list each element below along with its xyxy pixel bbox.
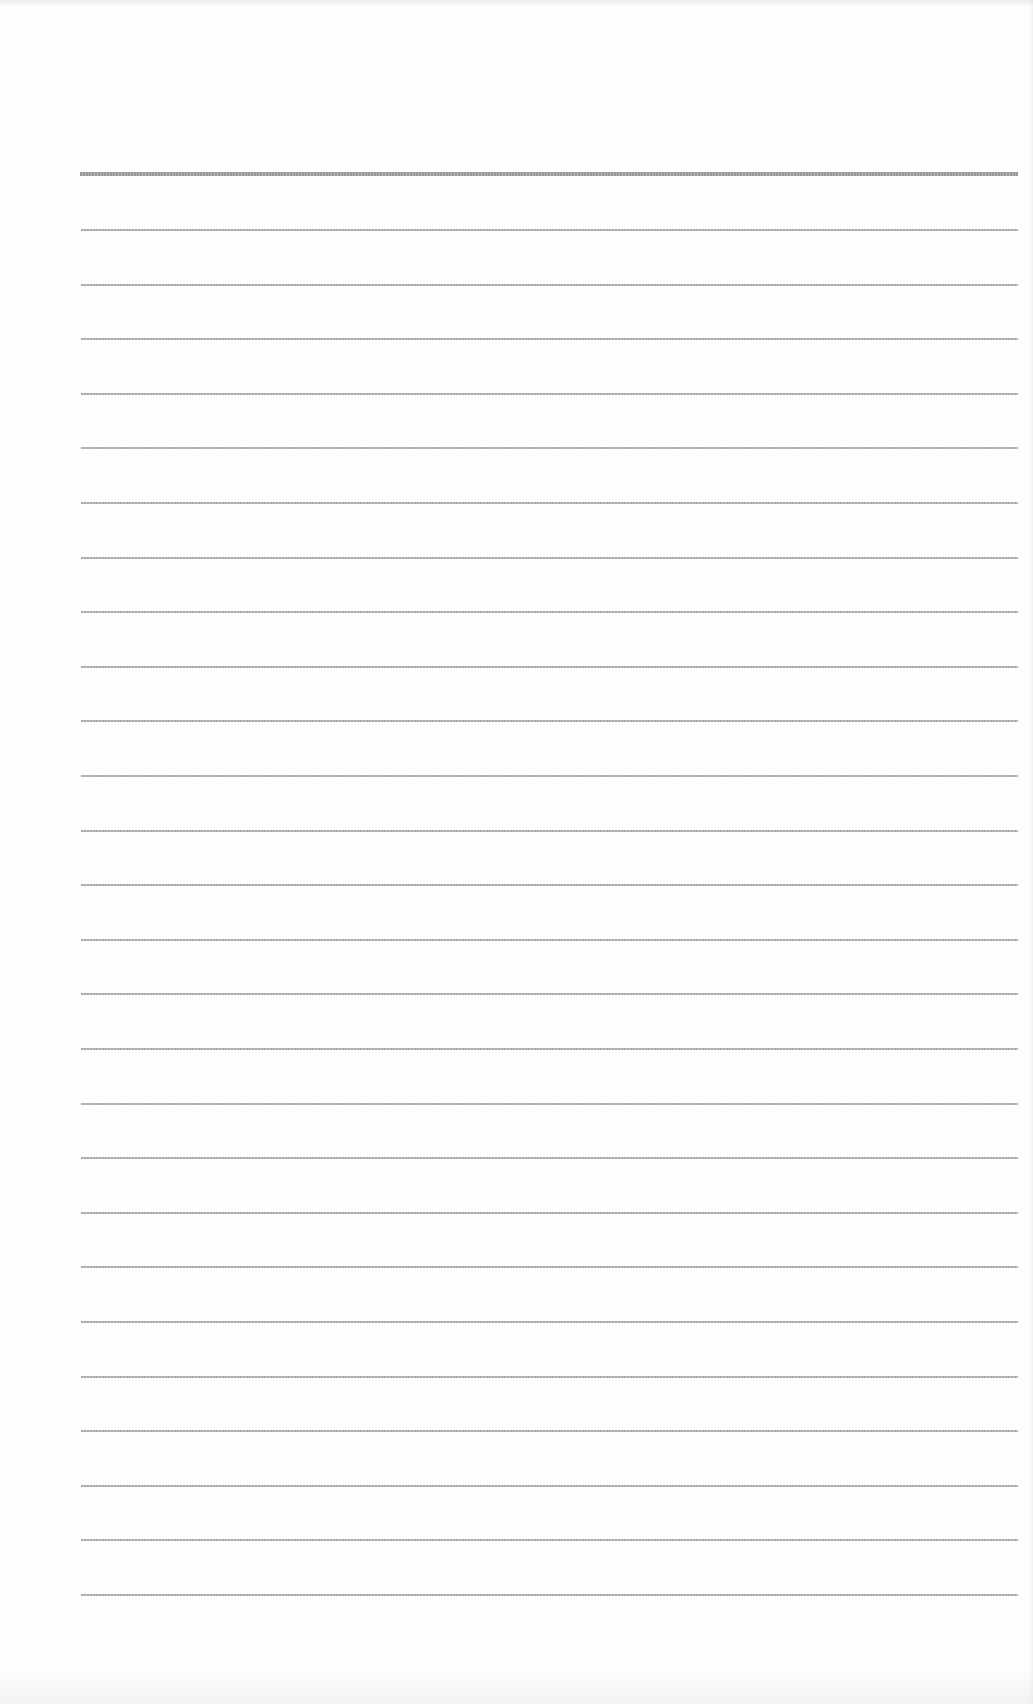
ruled-line — [81, 229, 1018, 231]
lined-paper-page — [0, 0, 1033, 1704]
ruled-line — [81, 720, 1018, 722]
ruled-line — [81, 447, 1018, 449]
ruled-line — [81, 775, 1018, 777]
ruled-line — [81, 1321, 1018, 1323]
ruled-line — [81, 1048, 1018, 1050]
ruled-line — [81, 939, 1018, 941]
ruled-line — [81, 1266, 1018, 1268]
ruled-line — [81, 1212, 1018, 1214]
ruled-line — [81, 393, 1018, 395]
ruled-line — [81, 611, 1018, 613]
ruled-line — [81, 338, 1018, 340]
ruled-line — [81, 1103, 1018, 1105]
ruled-line — [81, 1539, 1018, 1541]
ruled-line — [81, 557, 1018, 559]
top-edge-bleed — [0, 0, 1033, 6]
ruled-line — [81, 1594, 1018, 1596]
bottom-edge-shadow — [0, 1664, 1033, 1704]
right-edge-shadow — [1029, 0, 1033, 1704]
ruled-line — [81, 284, 1018, 286]
ruled-line — [81, 1157, 1018, 1159]
ruled-line — [81, 666, 1018, 668]
ruled-line — [81, 502, 1018, 504]
ruled-line — [81, 1376, 1018, 1378]
ruled-line — [81, 993, 1018, 995]
ruled-line — [81, 1430, 1018, 1432]
ruled-line — [81, 884, 1018, 886]
ruled-line — [81, 830, 1018, 832]
ruled-line — [81, 1485, 1018, 1487]
header-rule — [80, 172, 1018, 176]
